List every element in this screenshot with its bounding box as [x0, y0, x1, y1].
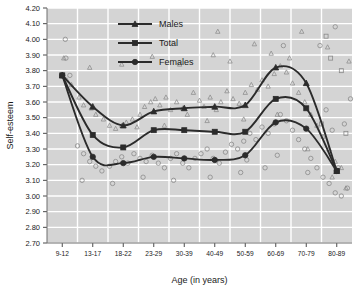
x-axis: 9-1213-1718-2223-2930-3940-4950-5960-697…	[47, 243, 352, 257]
x-tick-label: 80-89	[328, 250, 345, 257]
y-tick-label: 3.60	[25, 98, 40, 107]
x-tick-label: 40-49	[206, 250, 223, 257]
marker-females	[334, 168, 339, 173]
x-tick-label: 13-17	[84, 250, 101, 257]
x-axis-title: Age (in years)	[171, 275, 227, 285]
marker-females	[212, 157, 217, 162]
x-tick-label: 50-59	[237, 250, 254, 257]
legend-marker-square	[133, 41, 138, 46]
y-tick-label: 4.20	[25, 4, 40, 13]
marker-total	[304, 106, 309, 111]
y-tick-label: 4.00	[25, 35, 40, 44]
marker-females	[60, 73, 65, 78]
marker-females	[90, 154, 95, 159]
y-tick-label: 3.00	[25, 192, 40, 201]
x-tick-label: 18-22	[115, 250, 132, 257]
marker-total	[151, 128, 156, 133]
y-tick-label: 3.40	[25, 129, 40, 138]
x-tick-label: 30-39	[176, 250, 193, 257]
chart-container: 2.702.802.903.003.103.203.303.403.503.60…	[0, 0, 360, 297]
y-tick-label: 2.90	[25, 207, 40, 216]
y-axis-title: Self-esteem	[5, 101, 15, 149]
marker-total	[243, 129, 248, 134]
marker-total	[212, 129, 217, 134]
x-tick-label: 70-79	[298, 250, 315, 257]
y-tick-label: 2.70	[25, 239, 40, 248]
self-esteem-by-age-line-chart: 2.702.802.903.003.103.203.303.403.503.60…	[0, 0, 360, 297]
marker-total	[182, 128, 187, 133]
x-tick-label: 60-69	[267, 250, 284, 257]
marker-females	[304, 126, 309, 131]
y-tick-label: 3.90	[25, 51, 40, 60]
legend-label: Males	[159, 19, 184, 29]
marker-females	[151, 154, 156, 159]
y-tick-label: 3.30	[25, 145, 40, 154]
y-axis: 2.702.802.903.003.103.203.303.403.503.60…	[25, 4, 47, 248]
y-tick-label: 3.50	[25, 113, 40, 122]
y-tick-label: 4.10	[25, 19, 40, 28]
y-tick-label: 2.80	[25, 223, 40, 232]
marker-females	[273, 120, 278, 125]
y-tick-label: 3.70	[25, 82, 40, 91]
marker-females	[182, 156, 187, 161]
marker-females	[243, 153, 248, 158]
y-tick-label: 3.10	[25, 176, 40, 185]
legend-marker-circle	[132, 59, 137, 64]
marker-total	[90, 132, 95, 137]
x-tick-label: 23-29	[145, 250, 162, 257]
legend-label: Females	[159, 57, 194, 67]
marker-total	[121, 145, 126, 150]
y-tick-label: 3.20	[25, 160, 40, 169]
y-tick-label: 3.80	[25, 66, 40, 75]
x-tick-label: 9-12	[56, 250, 70, 257]
marker-females	[121, 160, 126, 165]
legend-label: Total	[159, 38, 178, 48]
marker-total	[273, 96, 278, 101]
